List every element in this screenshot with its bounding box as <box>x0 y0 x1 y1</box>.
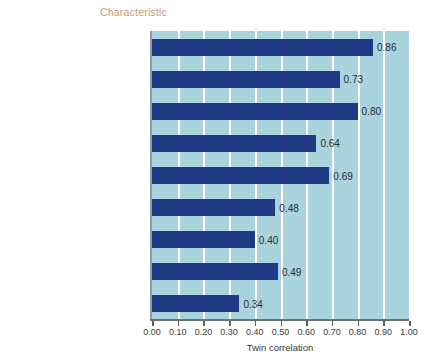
gridline-0.90 <box>383 31 385 320</box>
x-tick-label: 0.60 <box>297 327 315 337</box>
x-axis-line <box>150 319 409 321</box>
x-tick-label: 0.50 <box>272 327 290 337</box>
chart-title-characteristic: Characteristic <box>100 6 167 18</box>
bar-value-label: 0.48 <box>279 202 298 213</box>
x-tick-label: 0.80 <box>349 327 367 337</box>
x-tick-1.00 <box>409 321 411 326</box>
x-tick-label: 0.30 <box>220 327 238 337</box>
twin-correlation-bar-chart: Characteristic 0.000.100.200.300.400.500… <box>0 0 427 360</box>
bar <box>152 135 316 152</box>
bar <box>152 71 340 88</box>
bar <box>152 295 239 312</box>
x-tick-0.30 <box>229 321 231 326</box>
x-tick-label: 0.10 <box>169 327 187 337</box>
y-axis-line <box>150 31 152 320</box>
x-tick-label: 0.70 <box>323 327 341 337</box>
bar-value-label: 0.34 <box>243 298 262 309</box>
bar-value-label: 0.86 <box>377 42 396 53</box>
x-tick-0.50 <box>281 321 283 326</box>
x-tick-0.90 <box>383 321 385 326</box>
bar <box>152 263 278 280</box>
bar-value-label: 0.64 <box>320 138 339 149</box>
bar-value-label: 0.40 <box>259 234 278 245</box>
bar-value-label: 0.80 <box>362 106 381 117</box>
bar-value-label: 0.69 <box>333 170 352 181</box>
x-tick-label: 0.90 <box>375 327 393 337</box>
bar <box>152 231 255 248</box>
x-tick-label: 0.20 <box>195 327 213 337</box>
bar <box>152 103 358 120</box>
bar-value-label: 0.73 <box>344 74 363 85</box>
plot-area <box>152 31 409 320</box>
bar <box>152 167 329 184</box>
x-tick-label: 0.40 <box>246 327 264 337</box>
x-tick-label: 0.00 <box>143 327 161 337</box>
bar <box>152 39 373 56</box>
x-tick-0.40 <box>255 321 257 326</box>
bar-value-label: 0.49 <box>282 266 301 277</box>
x-tick-0.80 <box>358 321 360 326</box>
gridline-1.00 <box>409 31 411 320</box>
x-axis-title: Twin correlation <box>247 342 314 353</box>
x-tick-0.60 <box>306 321 308 326</box>
x-tick-0.70 <box>332 321 334 326</box>
x-tick-label: 1.00 <box>400 327 418 337</box>
x-tick-0.20 <box>203 321 205 326</box>
x-tick-0.10 <box>178 321 180 326</box>
x-tick-0.00 <box>152 321 154 326</box>
bar <box>152 199 275 216</box>
